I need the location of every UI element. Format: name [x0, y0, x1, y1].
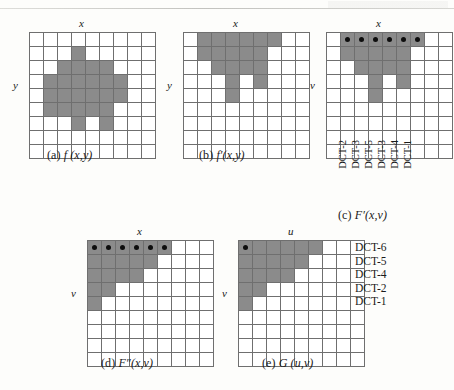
panel-d-caption: (d) F″(x,v) [101, 356, 153, 371]
dct-legend-item: DCT-4 [355, 268, 387, 282]
grid-cell-filled [44, 75, 58, 89]
grid-cell-filled [102, 255, 116, 269]
grid-cell-filled [44, 89, 58, 103]
grid-cell-empty [116, 297, 130, 311]
grid-cell-empty [198, 103, 212, 117]
grid-row [88, 269, 214, 283]
grid-cell-empty [86, 47, 100, 61]
grid-cell-empty [309, 311, 323, 325]
grid-cell-empty [355, 89, 369, 103]
grid-cell-empty [184, 33, 198, 47]
grid-cell-empty [226, 103, 240, 117]
grid-cell-empty [282, 89, 296, 103]
grid-cell-empty [158, 269, 172, 283]
grid-row [30, 89, 156, 103]
grid-cell-empty [323, 283, 337, 297]
grid-cell-empty [184, 61, 198, 75]
grid-cell-filled [355, 47, 369, 61]
grid-cell-empty [296, 89, 310, 103]
dc-coefficient-dot-icon [134, 245, 139, 250]
panel-a: x y (a) f (x,y) [29, 32, 156, 159]
grid-cell-filled [102, 269, 116, 283]
grid-cell-empty [172, 283, 186, 297]
grid-cell-filled [281, 269, 295, 283]
grid-cell-empty [102, 339, 116, 353]
grid-cell-empty [383, 117, 397, 131]
grid-cell-filled [144, 241, 158, 255]
grid-cell-empty [296, 75, 310, 89]
grid-cell-empty [282, 103, 296, 117]
grid-cell-empty [327, 75, 341, 89]
grid-cell-empty [144, 283, 158, 297]
grid-cell-empty [186, 339, 200, 353]
page-header-rule [0, 8, 454, 9]
grid-cell-filled [72, 103, 86, 117]
grid-cell-empty [425, 61, 439, 75]
grid-cell-empty [253, 311, 267, 325]
grid-cell-empty [425, 117, 439, 131]
grid-cell-empty [239, 353, 253, 367]
grid-cell-filled [281, 241, 295, 255]
grid-cell-empty [186, 311, 200, 325]
grid-cell-empty [267, 283, 281, 297]
grid-cell-empty [114, 47, 128, 61]
grid-cell-empty [341, 61, 355, 75]
grid-row [239, 311, 365, 325]
grid-cell-empty [281, 325, 295, 339]
grid-cell-filled [253, 241, 267, 255]
grid-cell-empty [351, 325, 365, 339]
grid-cell-empty [128, 89, 142, 103]
grid-cell-empty [172, 255, 186, 269]
grid-cell-empty [184, 47, 198, 61]
grid-row [327, 89, 453, 103]
grid-cell-empty [323, 325, 337, 339]
grid-cell-empty [439, 131, 453, 145]
grid-cell-empty [341, 117, 355, 131]
grid-cell-empty [172, 311, 186, 325]
grid-cell-empty [172, 297, 186, 311]
grid-cell-empty [268, 103, 282, 117]
grid-cell-empty [128, 145, 142, 159]
grid-cell-filled [254, 61, 268, 75]
grid-cell-empty [268, 61, 282, 75]
grid-cell-empty [240, 75, 254, 89]
grid-cell-empty [102, 325, 116, 339]
grid-cell-empty [327, 47, 341, 61]
grid-cell-empty [158, 297, 172, 311]
grid-cell-empty [411, 47, 425, 61]
dc-coefficient-dot-icon [92, 245, 97, 250]
figure-page: x y (a) f (x,y) x y (b) f′(x,y) x v DCT-… [0, 0, 454, 390]
grid-cell-filled [72, 89, 86, 103]
grid-cell-filled [88, 255, 102, 269]
grid-cell-empty [58, 117, 72, 131]
grid-cell-empty [295, 325, 309, 339]
grid-cell-empty [327, 33, 341, 47]
grid-cell-empty [128, 103, 142, 117]
panel-c-tick-label: DCT-1 [403, 140, 416, 169]
grid-cell-empty [327, 61, 341, 75]
grid-cell-filled [268, 33, 282, 47]
grid-cell-filled [253, 255, 267, 269]
grid-cell-empty [351, 311, 365, 325]
panel-c: x v DCT-2DCT-3DCT-5DCT-3DCT-4DCT-1 (c) F… [326, 32, 453, 159]
grid-cell-filled [295, 241, 309, 255]
grid-cell-filled [253, 269, 267, 283]
grid-cell-empty [198, 117, 212, 131]
grid-cell-empty [128, 131, 142, 145]
grid-cell-empty [282, 47, 296, 61]
grid-cell-empty [184, 117, 198, 131]
grid-row [327, 117, 453, 131]
grid-cell-empty [369, 117, 383, 131]
grid-cell-filled [239, 269, 253, 283]
grid-cell-empty [58, 131, 72, 145]
grid-cell-empty [351, 339, 365, 353]
grid-cell-filled [397, 33, 411, 47]
grid-cell-empty [30, 61, 44, 75]
grid-cell-filled [100, 117, 114, 131]
grid-cell-empty [425, 47, 439, 61]
grid-cell-empty [142, 145, 156, 159]
grid-cell-filled [72, 117, 86, 131]
grid-cell-empty [44, 33, 58, 47]
grid-cell-filled [355, 61, 369, 75]
grid-cell-filled [226, 75, 240, 89]
